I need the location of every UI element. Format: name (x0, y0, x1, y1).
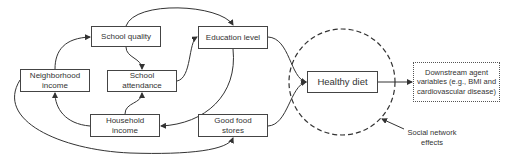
node-label: School quality (101, 32, 151, 42)
node-label: Good food stores (208, 116, 258, 136)
node-school-quality: School quality (91, 26, 161, 47)
node-label: Neighborhood income (21, 71, 89, 91)
node-label: Household income (100, 116, 150, 136)
edge-household-to-attendance (125, 93, 142, 114)
node-healthy-diet: Healthy diet (307, 71, 378, 93)
edge-household-to-neighborhood (55, 93, 90, 126)
node-good-food-stores: Good food stores (198, 114, 268, 137)
edge-school-quality-to-education (126, 8, 233, 26)
social-network-label: Social network effects (402, 128, 462, 148)
node-label: Education level (206, 33, 260, 43)
edge-neighborhood-to-school-quality (55, 37, 90, 69)
node-school-attendance: School attendance (107, 70, 177, 92)
node-label: Healthy diet (317, 77, 367, 87)
edge-education-to-healthy-diet (268, 37, 306, 82)
edge-attendance-to-education (177, 37, 197, 81)
node-label: School attendance (117, 71, 167, 91)
edge-school-quality-to-attendance (126, 47, 142, 69)
node-downstream-variables: Downstream agent variables (e.g., BMI an… (413, 62, 500, 102)
node-neighborhood-income: Neighborhood income (20, 69, 90, 92)
node-household-income: Household income (90, 114, 160, 137)
node-education-level: Education level (198, 26, 268, 49)
social-network-pointer (382, 119, 404, 129)
node-label: Downstream agent variables (e.g., BMI an… (417, 68, 497, 97)
edge-good-food-to-healthy-diet (268, 82, 306, 126)
